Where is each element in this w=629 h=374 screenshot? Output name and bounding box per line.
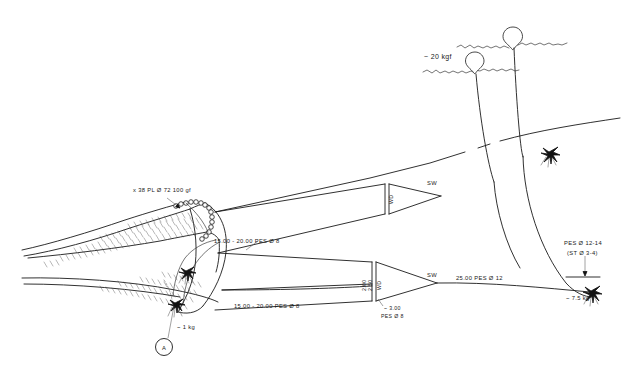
lower-bridle-label: 15.00 - 20.00 PES Ø 8 [234,303,300,309]
crowfoot-bridle-icon-net-lower [168,299,185,317]
spread-lower-label: 2.50 [367,280,373,292]
sweepline-label: 25.00 PES Ø 12 [456,275,503,281]
detail-callout-icon[interactable]: A [156,339,173,356]
headline-floats-icon [174,200,215,242]
warp-spec-line1-label: PES Ø 12-14 [564,240,602,246]
buoyancy-label: ~ 20 kgf [424,53,452,61]
footrope-spec-label: PES Ø 8 [381,313,404,319]
trawl-net-body [22,202,226,313]
diagram-canvas: A x 38 PL Ø 72 100 gf 15.00 - 20.00 PES … [0,0,629,374]
weight-left-label: ~ 1 kg [177,324,195,330]
spreader-assembly-lower [215,253,437,310]
footrope-note-label: ~ 3.00 [384,305,401,311]
detail-arc [164,280,172,300]
wd-upper-label: WD [388,195,394,204]
leader-arrow-icon-warp [583,272,587,277]
detail-ref-label: A [162,345,166,351]
upper-bridle-label: 15.00 - 20.00 PES Ø 8 [214,238,280,244]
buoy-line-left [476,74,494,182]
balloon-float-icon-right [503,27,523,50]
weight-right-label: ~ 7.5 kg [566,295,590,301]
upper-tow-line-gap [478,144,490,148]
wd-lower-label: WD [376,281,382,290]
secondary-warp-line [494,182,520,268]
buoy-line-right [514,48,523,157]
trawl-diagram: A x 38 PL Ø 72 100 gf 15.00 - 20.00 PES … [0,0,629,374]
warp-spec-line2-label: (ST Ø 3-4) [567,250,598,256]
warp-line [523,156,592,297]
floatline-label: x 38 PL Ø 72 100 gf [133,187,191,193]
crowfoot-bridle-icon-upper-right [541,147,560,167]
net-mesh-hatching [44,213,203,309]
sw-lower-label: SW [427,272,437,278]
sw-upper-label: SW [427,180,437,186]
